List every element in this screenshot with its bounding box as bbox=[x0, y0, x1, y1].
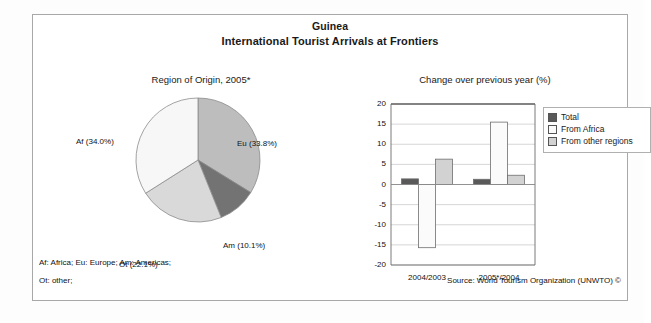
bar-total-1 bbox=[474, 179, 491, 184]
y-tick-label: 0 bbox=[364, 180, 386, 189]
pie-label-af: Af (34.0%) bbox=[76, 137, 114, 146]
y-tick-label: 5 bbox=[364, 159, 386, 168]
figure-panel: Guinea International Tourist Arrivals at… bbox=[32, 14, 628, 301]
y-tick-label: 10 bbox=[364, 139, 386, 148]
y-tick-label: -15 bbox=[364, 240, 386, 249]
legend-swatch-icon bbox=[548, 137, 557, 146]
footnote-abbreviations-2: Ot: other; bbox=[39, 276, 72, 285]
bar-from-africa-1 bbox=[491, 122, 508, 184]
bar-chart-legend: TotalFrom AfricaFrom other regions bbox=[543, 107, 651, 153]
y-tick-label: -20 bbox=[364, 260, 386, 269]
pie-chart: Af (34.0%) Eu (33.8%) Am (10.1%) Ot (22.… bbox=[71, 93, 321, 268]
pie-chart-svg bbox=[133, 95, 263, 225]
page-subtitle: International Tourist Arrivals at Fronti… bbox=[33, 35, 627, 47]
pie-label-am: Am (10.1%) bbox=[223, 241, 265, 250]
bar-chart-title: Change over previous year (%) bbox=[375, 74, 595, 85]
legend-item: From Africa bbox=[548, 124, 646, 134]
y-tick-label: -5 bbox=[364, 200, 386, 209]
pie-label-eu: Eu (33.8%) bbox=[237, 139, 277, 148]
y-tick-label: 20 bbox=[364, 99, 386, 108]
bar-from-other-regions-1 bbox=[508, 175, 525, 184]
footnote-abbreviations-1: Af: Africa; Eu: Europe; Am: Americas; bbox=[39, 258, 171, 267]
source-attribution: Source: World Tourism Organization (UNWT… bbox=[447, 276, 621, 285]
bar-from-other-regions-0 bbox=[436, 159, 453, 184]
y-tick-label: 15 bbox=[364, 119, 386, 128]
bar-total-0 bbox=[402, 179, 419, 185]
legend-label: Total bbox=[561, 112, 579, 122]
pie-chart-title: Region of Origin, 2005* bbox=[91, 74, 311, 85]
legend-item: Total bbox=[548, 112, 646, 122]
bar-from-africa-0 bbox=[419, 185, 436, 248]
legend-label: From Africa bbox=[561, 124, 604, 134]
y-tick-label: -10 bbox=[364, 220, 386, 229]
page-title: Guinea bbox=[33, 20, 627, 32]
legend-item: From other regions bbox=[548, 136, 646, 146]
legend-label: From other regions bbox=[561, 136, 633, 146]
legend-swatch-icon bbox=[548, 125, 557, 134]
legend-swatch-icon bbox=[548, 113, 557, 122]
